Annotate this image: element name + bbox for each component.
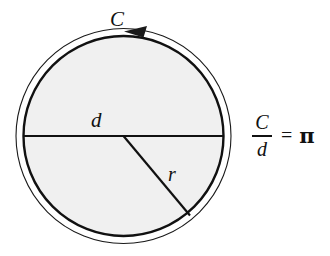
figure-canvas: C d r C d = π [0,0,330,256]
formula-pi-symbol: π [299,123,314,148]
formula-equals-sign: = [281,124,292,147]
label-radius: r [168,164,176,184]
label-diameter: d [91,110,102,131]
formula-fraction-bar [252,135,272,137]
formula-denominator: d [254,139,270,160]
label-circumference: C [110,9,124,30]
formula-numerator: C [252,112,271,133]
formula-fraction: C d [252,112,272,160]
formula-expression: C d = π [252,112,315,160]
